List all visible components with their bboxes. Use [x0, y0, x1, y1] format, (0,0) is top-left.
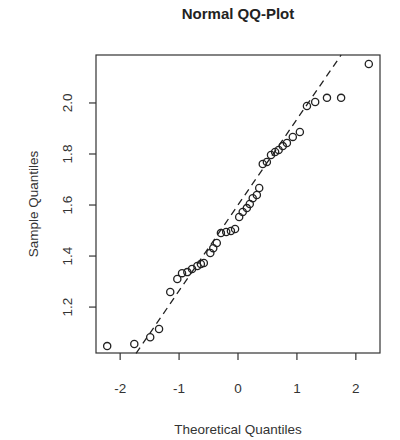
x-tick-label: 1 [293, 381, 301, 396]
x-tick-label: -1 [173, 381, 185, 396]
y-axis: 1.21.41.61.82.0 [60, 94, 96, 317]
data-point [104, 343, 111, 350]
y-tick-label: 1.4 [60, 246, 75, 265]
data-point [323, 94, 330, 101]
data-point [256, 184, 263, 191]
data-point [338, 94, 345, 101]
data-point [236, 213, 243, 220]
x-tick-label: -2 [114, 381, 126, 396]
y-axis-title: Sample Quantiles [26, 150, 41, 257]
x-tick-label: 0 [234, 381, 242, 396]
x-tick-label: 2 [352, 381, 360, 396]
reference-line [136, 55, 341, 353]
data-point [312, 98, 319, 105]
data-points [104, 60, 373, 349]
y-tick-label: 1.8 [60, 145, 75, 164]
qq-plot: Normal QQ-Plot -2-1012 1.21.41.61.82.0 T… [0, 0, 400, 440]
data-point [213, 239, 220, 246]
x-axis: -2-1012 [114, 353, 359, 396]
data-point [289, 133, 296, 140]
data-point [296, 128, 303, 135]
data-point [365, 60, 372, 67]
data-point [131, 340, 138, 347]
x-axis-title: Theoretical Quantiles [174, 422, 302, 437]
data-point [155, 325, 162, 332]
y-tick-label: 2.0 [60, 94, 75, 113]
chart-title: Normal QQ-Plot [182, 5, 295, 22]
y-tick-label: 1.6 [60, 196, 75, 215]
data-point [147, 334, 154, 341]
data-point [303, 102, 310, 109]
y-tick-label: 1.2 [60, 298, 75, 317]
data-point [167, 288, 174, 295]
qq-reference-line [136, 55, 341, 353]
